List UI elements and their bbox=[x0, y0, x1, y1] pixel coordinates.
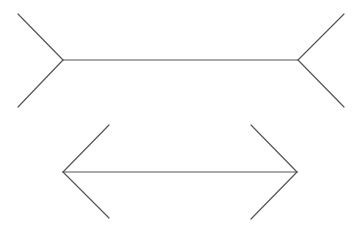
fin-line bbox=[18, 14, 63, 60]
fin-line bbox=[63, 172, 109, 218]
fin-line bbox=[298, 60, 344, 107]
fin-line bbox=[251, 172, 297, 219]
fin-line bbox=[298, 14, 344, 60]
figure-fins-out bbox=[18, 14, 344, 107]
fin-line bbox=[18, 60, 63, 107]
muller-lyer-illusion bbox=[0, 0, 360, 231]
fin-line bbox=[63, 125, 109, 172]
diagram-canvas bbox=[0, 0, 360, 231]
figure-fins-in bbox=[63, 125, 297, 219]
fin-line bbox=[251, 125, 297, 172]
